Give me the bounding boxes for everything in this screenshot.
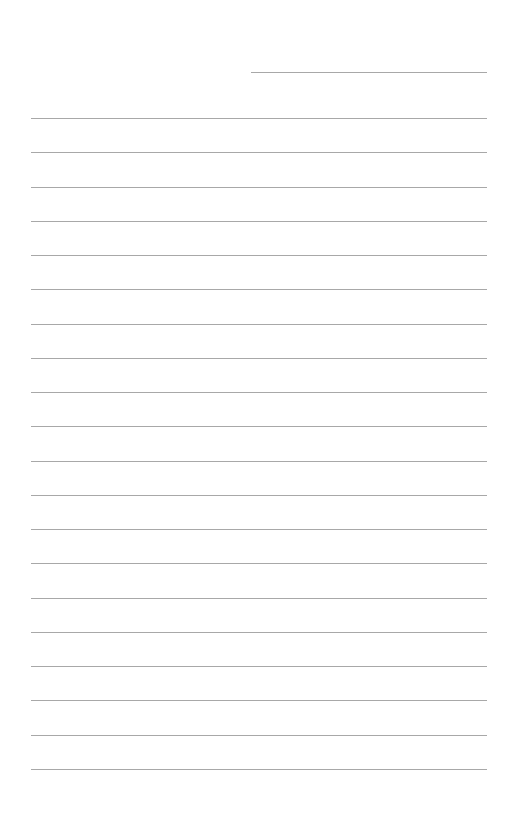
ruled-line bbox=[31, 598, 487, 599]
lined-paper-page bbox=[0, 0, 512, 831]
ruled-line bbox=[31, 632, 487, 633]
ruled-line bbox=[31, 152, 487, 153]
ruled-line bbox=[31, 735, 487, 736]
ruled-line bbox=[31, 495, 487, 496]
ruled-line bbox=[31, 289, 487, 290]
ruled-line bbox=[31, 187, 487, 188]
ruled-line bbox=[31, 700, 487, 701]
ruled-line bbox=[31, 118, 487, 119]
ruled-line bbox=[31, 666, 487, 667]
date-line bbox=[251, 72, 487, 73]
ruled-line bbox=[31, 324, 487, 325]
ruled-line bbox=[31, 358, 487, 359]
ruled-line bbox=[31, 769, 487, 770]
ruled-line bbox=[31, 461, 487, 462]
ruled-line bbox=[31, 221, 487, 222]
ruled-line bbox=[31, 255, 487, 256]
ruled-line bbox=[31, 426, 487, 427]
ruled-line bbox=[31, 392, 487, 393]
ruled-line bbox=[31, 563, 487, 564]
ruled-line bbox=[31, 529, 487, 530]
